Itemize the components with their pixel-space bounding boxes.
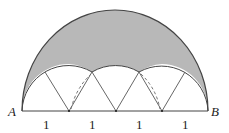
shaded-region bbox=[22, 10, 208, 111]
segment-label-3: 1 bbox=[136, 117, 143, 132]
point-label-B: B bbox=[211, 104, 219, 119]
segment-label-1: 1 bbox=[43, 117, 50, 132]
point-label-A: A bbox=[7, 104, 16, 119]
segment-label-2: 1 bbox=[89, 117, 96, 132]
semicircle-diagram: A B 1 1 1 1 bbox=[0, 0, 229, 133]
segment-label-4: 1 bbox=[182, 117, 189, 132]
radial-lines bbox=[45, 72, 185, 111]
